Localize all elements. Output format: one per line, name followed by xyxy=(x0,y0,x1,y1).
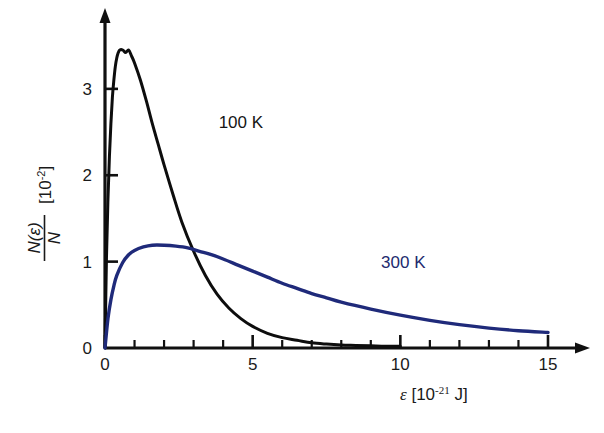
series-annotation-300k: 300 K xyxy=(381,253,426,272)
x-axis-tick-labels: 051015 xyxy=(100,355,557,374)
x-tick-label-10: 10 xyxy=(391,355,410,374)
curve-100k xyxy=(105,50,400,348)
y-axis-tick-labels: 0123 xyxy=(83,80,92,358)
x-axis-arrowhead xyxy=(575,343,590,354)
data-curves xyxy=(105,50,548,348)
y-tick-label-3: 3 xyxy=(83,80,92,99)
x-tick-label-5: 5 xyxy=(248,355,257,374)
x-axis-major-ticks xyxy=(105,335,548,348)
y-axis-title-bracket: [10 xyxy=(36,180,55,204)
x-axis-title-bracket: [10 xyxy=(407,385,435,404)
svg-text:ε [10-21 J]: ε [10-21 J] xyxy=(400,384,468,404)
svg-text:N(ε): N(ε) xyxy=(25,222,44,253)
y-axis-arrowhead xyxy=(100,8,111,23)
y-axis-title-bracket-close: ] xyxy=(36,166,55,171)
x-tick-label-15: 15 xyxy=(539,355,558,374)
y-axis-title-numerator: N(ε) xyxy=(25,222,44,253)
chart-figure: 051015 0123 100 K 300 K ε [10-21 J] N(ε) xyxy=(0,0,604,433)
x-tick-label-0: 0 xyxy=(100,355,109,374)
y-tick-label-1: 1 xyxy=(83,253,92,272)
svg-text:N: N xyxy=(45,231,64,244)
x-axis-title: ε [10-21 J] xyxy=(400,384,468,404)
y-axis-title-exponent: -2 xyxy=(35,171,47,181)
svg-text:[10-2]: [10-2] xyxy=(35,166,55,204)
y-tick-label-2: 2 xyxy=(83,166,92,185)
curve-300k xyxy=(105,245,548,348)
series-annotation-100k: 100 K xyxy=(219,113,264,132)
y-axis-title: N(ε) N [10-2] xyxy=(25,166,64,261)
y-tick-label-0: 0 xyxy=(83,339,92,358)
x-axis-title-exponent: -21 xyxy=(435,384,450,396)
energy-distribution-chart: 051015 0123 100 K 300 K ε [10-21 J] N(ε) xyxy=(0,0,604,433)
x-axis-title-unit: J] xyxy=(450,385,468,404)
y-axis-title-denominator: N xyxy=(45,231,64,244)
